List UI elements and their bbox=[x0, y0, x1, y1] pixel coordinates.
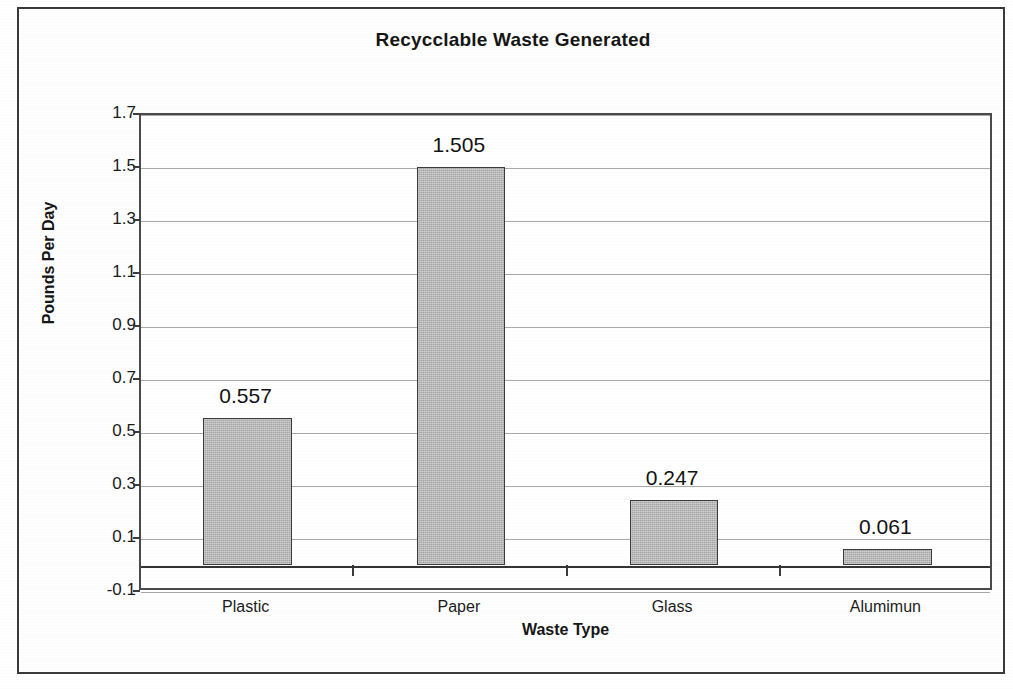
y-axis-tick-mark bbox=[133, 431, 140, 433]
bar bbox=[417, 167, 505, 566]
y-axis-tick-mark bbox=[133, 113, 140, 115]
bar-texture bbox=[631, 501, 717, 564]
bar-value-label: 0.247 bbox=[602, 466, 742, 490]
y-axis-tick-label: 0.1 bbox=[36, 527, 136, 547]
y-axis-tick-mark bbox=[133, 484, 140, 486]
x-axis-category-label: Paper bbox=[379, 598, 539, 616]
gridline bbox=[141, 380, 990, 381]
y-axis-tick-label: 0.3 bbox=[36, 474, 136, 494]
gridline bbox=[141, 274, 990, 275]
y-axis-tick-mark bbox=[133, 166, 140, 168]
gridline bbox=[141, 168, 990, 169]
x-axis-category-label: Plastic bbox=[166, 598, 326, 616]
y-axis-tick-mark bbox=[133, 325, 140, 327]
bar-texture bbox=[204, 419, 290, 565]
y-axis-tick-mark bbox=[133, 590, 140, 592]
y-axis-tick-label: 0.5 bbox=[36, 421, 136, 441]
y-axis-tick-label: 0.7 bbox=[36, 368, 136, 388]
gridline bbox=[141, 221, 990, 222]
y-axis-tick-label: 1.7 bbox=[36, 103, 136, 123]
bar bbox=[203, 418, 291, 566]
y-axis-tick-label: 1.5 bbox=[36, 156, 136, 176]
y-axis-tick-mark bbox=[133, 272, 140, 274]
chart-frame: Recycclable Waste Generated Pounds Per D… bbox=[17, 7, 1005, 674]
y-axis-tick-label: 0.9 bbox=[36, 315, 136, 335]
bar bbox=[630, 500, 718, 565]
bar-texture bbox=[418, 168, 504, 565]
y-axis-tick-mark bbox=[133, 378, 140, 380]
y-axis-tick-label: -0.1 bbox=[36, 580, 136, 600]
y-axis-tick-mark bbox=[133, 219, 140, 221]
zero-baseline bbox=[141, 566, 990, 568]
bar bbox=[843, 549, 931, 565]
x-axis-category-label: Glass bbox=[592, 598, 752, 616]
bar-value-label: 1.505 bbox=[389, 133, 529, 157]
gridline bbox=[141, 327, 990, 328]
bar-value-label: 0.557 bbox=[176, 384, 316, 408]
chart-title: Recycclable Waste Generated bbox=[19, 29, 1007, 51]
bar-texture bbox=[844, 550, 930, 564]
x-axis-category-label: Alumimun bbox=[805, 598, 965, 616]
gridline bbox=[141, 115, 990, 116]
y-axis-tick-mark bbox=[133, 537, 140, 539]
y-axis-tick-label: 1.3 bbox=[36, 209, 136, 229]
bar-value-label: 0.061 bbox=[815, 515, 955, 539]
x-axis-title: Waste Type bbox=[139, 621, 992, 639]
gridline bbox=[141, 592, 990, 593]
y-axis-tick-label: 1.1 bbox=[36, 262, 136, 282]
